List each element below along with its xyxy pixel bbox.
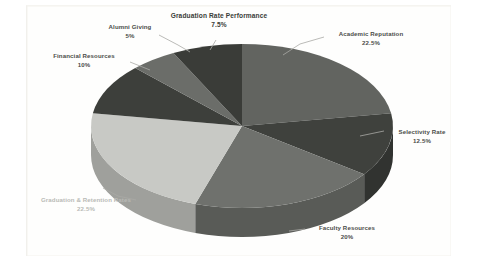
label-faculty-resources: Faculty Resources 20% xyxy=(306,224,388,241)
pie-slice-academic-reputation[interactable] xyxy=(242,44,391,126)
label-graduation-rate-performance-name: Graduation Rate Performance xyxy=(171,12,268,19)
label-financial-resources-pct: 10% xyxy=(40,61,128,70)
label-alumni-giving: Alumni Giving 5% xyxy=(95,23,165,40)
label-selectivity-rate-name: Selectivity Rate xyxy=(399,128,446,135)
label-graduation-rate-performance: Graduation Rate Performance 7.5% xyxy=(160,12,278,29)
label-academic-reputation-name: Academic Reputation xyxy=(339,30,404,37)
label-academic-reputation-pct: 22.5% xyxy=(325,39,417,48)
chart-page: Graduation Rate Performance 7.5% Alumni … xyxy=(0,0,477,266)
label-faculty-resources-name: Faculty Resources xyxy=(319,224,375,231)
label-financial-resources: Financial Resources 10% xyxy=(40,52,128,69)
label-alumni-giving-name: Alumni Giving xyxy=(109,23,152,30)
label-graduation-retention-name: Graduation & Retention Rates xyxy=(41,196,131,203)
label-financial-resources-name: Financial Resources xyxy=(53,52,115,59)
label-selectivity-rate: Selectivity Rate 12.5% xyxy=(384,128,460,145)
label-graduation-rate-performance-pct: 7.5% xyxy=(160,21,278,30)
label-graduation-retention: Graduation & Retention Rates 22.5% xyxy=(32,196,140,213)
label-faculty-resources-pct: 20% xyxy=(306,233,388,242)
pie-top-faces xyxy=(91,44,393,208)
label-graduation-retention-pct: 22.5% xyxy=(32,205,140,214)
label-selectivity-rate-pct: 12.5% xyxy=(384,137,460,146)
label-alumni-giving-pct: 5% xyxy=(95,32,165,41)
label-academic-reputation: Academic Reputation 22.5% xyxy=(325,30,417,47)
